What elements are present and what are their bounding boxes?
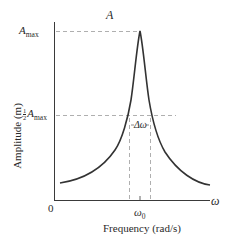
amax-tick-label: Amax (19, 25, 39, 36)
half-amax-tick-label: 12Amax (23, 108, 47, 121)
half-fraction: 12 (23, 108, 26, 121)
delta-omega-label: Δω (134, 120, 147, 130)
half-amax-sub: max (34, 113, 47, 122)
omega0-main: ω (134, 206, 142, 218)
omega0-sub: 0 (142, 212, 146, 221)
chart-title: A (106, 9, 113, 21)
amax-sub: max (26, 30, 39, 39)
amax-main: A (19, 24, 26, 36)
y-axis-label: Amplitude (m) (11, 91, 23, 181)
origin-label: 0 (48, 203, 54, 214)
x-axis-end-label: ω (211, 195, 219, 207)
resonance-curve (60, 31, 210, 185)
half-amax-main: A (27, 107, 34, 119)
x-axis-label: Frequency (rad/s) (103, 223, 181, 234)
omega0-tick-label: ω0 (134, 207, 146, 218)
